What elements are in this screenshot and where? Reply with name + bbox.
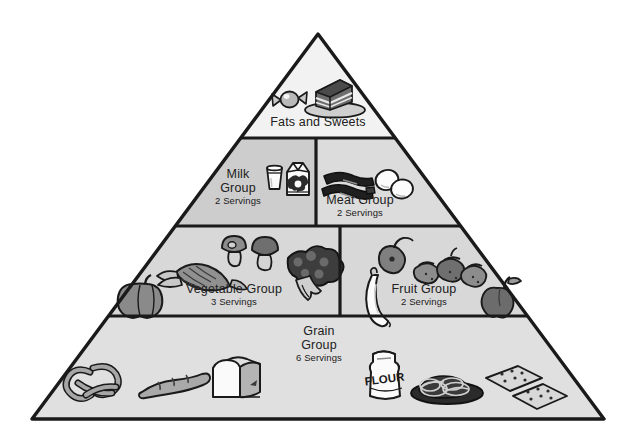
milk-glass-icon [267, 166, 282, 189]
pyramid-svg: FLOUR [0, 0, 632, 446]
tier-fats-sweets [0, 0, 632, 138]
milk-carton-icon [287, 163, 309, 195]
bread-loaf-icon [213, 357, 260, 397]
food-pyramid-diagram: FLOUR [0, 0, 632, 446]
